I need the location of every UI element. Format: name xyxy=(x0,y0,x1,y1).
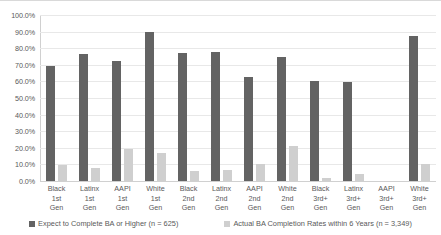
x-axis-category-label: Latinx3rd+Gen xyxy=(337,184,370,213)
x-axis-category-label: White2ndGen xyxy=(271,184,304,213)
bar-group xyxy=(304,15,337,181)
legend-label: Actual BA Completion Rates within 6 Year… xyxy=(233,219,412,228)
bar-group xyxy=(172,15,205,181)
x-axis-category-labels: Black1stGenLatinx1stGenAAPI1stGenWhite1s… xyxy=(40,184,436,213)
chart-legend: Expect to Complete BA or Higher (n = 625… xyxy=(0,219,441,228)
bar-actual xyxy=(256,164,265,181)
legend-label: Expect to Complete BA or Higher (n = 625… xyxy=(38,219,178,228)
x-axis-category-label: Black3rd+Gen xyxy=(304,184,337,213)
y-axis-tick-label: 90.0% xyxy=(15,27,35,36)
x-axis-category-label: Black1stGen xyxy=(40,184,73,213)
bar-expect xyxy=(46,66,55,181)
bar-group xyxy=(139,15,172,181)
bar-group xyxy=(205,15,238,181)
bar-expect xyxy=(310,81,319,181)
x-axis-category-label: AAPI3rd+Gen xyxy=(370,184,403,213)
bar-expect xyxy=(178,53,187,181)
plot-area xyxy=(40,15,436,181)
bar-actual xyxy=(157,153,166,181)
gridline xyxy=(40,181,436,182)
bar-actual xyxy=(223,170,232,181)
legend-swatch-icon xyxy=(224,221,230,227)
y-axis-tick-label: 70.0% xyxy=(15,60,35,69)
bar-expect xyxy=(277,57,286,182)
bar-expect xyxy=(79,54,88,181)
bar-actual xyxy=(421,164,430,181)
y-axis-tick-label: 30.0% xyxy=(15,127,35,136)
x-axis-category-label: Black2ndGen xyxy=(172,184,205,213)
y-axis-tick-label: 20.0% xyxy=(15,143,35,152)
legend-item[interactable]: Expect to Complete BA or Higher (n = 625… xyxy=(29,219,178,228)
x-axis-category-label: Latinx2ndGen xyxy=(205,184,238,213)
bar-groups xyxy=(40,15,436,181)
bar-group xyxy=(403,15,436,181)
legend-item[interactable]: Actual BA Completion Rates within 6 Year… xyxy=(224,219,412,228)
bar-expect xyxy=(211,52,220,181)
y-axis-tick-label: 50.0% xyxy=(15,94,35,103)
bar-group xyxy=(73,15,106,181)
bar-actual xyxy=(355,174,364,181)
bar-group xyxy=(271,15,304,181)
bar-expect xyxy=(409,36,418,181)
bar-actual xyxy=(58,165,67,181)
x-axis-category-label: AAPI1stGen xyxy=(106,184,139,213)
x-axis-category-label: Latinx1stGen xyxy=(73,184,106,213)
bar-actual xyxy=(91,168,100,181)
y-axis-tick-label: 0.0% xyxy=(19,177,35,186)
y-axis-tick-label: 80.0% xyxy=(15,44,35,53)
bar-chart: 100.0%90.0%80.0%70.0%60.0%50.0%40.0%30.0… xyxy=(0,0,441,235)
bar-group xyxy=(106,15,139,181)
bar-group xyxy=(238,15,271,181)
bar-actual xyxy=(124,149,133,181)
y-axis-tick-label: 40.0% xyxy=(15,110,35,119)
bar-group xyxy=(337,15,370,181)
bar-expect xyxy=(145,32,154,181)
bar-expect xyxy=(244,77,253,181)
x-axis-category-label: AAPI2ndGen xyxy=(238,184,271,213)
bar-expect xyxy=(112,61,121,181)
bar-actual xyxy=(322,178,331,181)
y-axis-tick-label: 60.0% xyxy=(15,77,35,86)
bar-expect xyxy=(343,82,352,181)
bar-group xyxy=(370,15,403,181)
legend-swatch-icon xyxy=(29,221,35,227)
x-axis-category-label: White1stGen xyxy=(139,184,172,213)
y-axis-tick-label: 100.0% xyxy=(11,11,35,20)
y-axis-tick-label: 10.0% xyxy=(15,160,35,169)
bar-actual xyxy=(190,171,199,181)
bar-group xyxy=(40,15,73,181)
bar-actual xyxy=(289,146,298,181)
x-axis-category-label: White3rd+Gen xyxy=(403,184,436,213)
y-axis: 100.0%90.0%80.0%70.0%60.0%50.0%40.0%30.0… xyxy=(0,1,38,195)
